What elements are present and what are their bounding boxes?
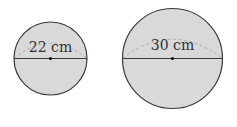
small-circle-center-dot <box>49 57 52 60</box>
small-circle-group: 22 cm <box>14 22 87 95</box>
large-circle-group: 30 cm <box>123 9 223 109</box>
large-circle-center-dot <box>171 57 174 60</box>
small-circle-diameter-label: 22 cm <box>29 39 72 55</box>
circles-diagram: 22 cm 30 cm <box>0 0 237 127</box>
large-circle-diameter-label: 30 cm <box>151 37 194 53</box>
